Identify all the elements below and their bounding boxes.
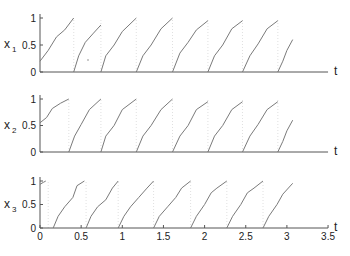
data-line-segment bbox=[208, 102, 243, 152]
x-tick-label: 0.5 bbox=[74, 231, 88, 242]
data-line-segment bbox=[69, 99, 101, 152]
data-line-segment bbox=[243, 21, 278, 72]
y-axis-label-subscript: 1 bbox=[12, 45, 17, 54]
y-tick-label: 0 bbox=[30, 223, 36, 234]
y-tick-label: 0.5 bbox=[22, 40, 36, 51]
data-line-segment bbox=[53, 181, 84, 228]
data-line-segment bbox=[101, 99, 136, 152]
stacked-phase-chart: 00.51x1t00.51x2t00.51x3t00.511.522.533.5 bbox=[0, 0, 350, 256]
data-line-segment bbox=[136, 18, 172, 72]
x-axis-label: t bbox=[334, 64, 338, 78]
x-tick-label: 2 bbox=[202, 231, 208, 242]
panel-x2: 00.51x2t bbox=[4, 94, 338, 159]
data-line-segment bbox=[173, 21, 208, 72]
x-tick-label: 0 bbox=[37, 231, 43, 242]
y-axis-label: x bbox=[4, 197, 10, 211]
data-line-segment bbox=[101, 18, 136, 72]
y-tick-label: 1 bbox=[30, 13, 36, 24]
data-line-segment bbox=[278, 120, 293, 152]
y-axis-label-subscript: 3 bbox=[12, 205, 17, 214]
y-axis-label: x bbox=[4, 118, 10, 132]
data-line-segment bbox=[86, 181, 118, 228]
y-tick-label: 0 bbox=[30, 67, 36, 78]
y-tick-label: 0.5 bbox=[22, 199, 36, 210]
stray-dot bbox=[87, 59, 89, 61]
y-axis-label-subscript: 2 bbox=[12, 126, 17, 135]
x-axis-label: t bbox=[334, 144, 338, 158]
x-tick-label: 1 bbox=[120, 231, 126, 242]
y-tick-label: 0.5 bbox=[22, 120, 36, 131]
y-tick-label: 1 bbox=[30, 94, 36, 105]
x-tick-label: 3.5 bbox=[321, 231, 335, 242]
data-line-segment bbox=[118, 181, 153, 228]
data-line-segment bbox=[40, 18, 74, 61]
data-line-segment bbox=[173, 102, 208, 152]
data-line-segment bbox=[40, 99, 69, 123]
y-tick-label: 1 bbox=[30, 176, 36, 187]
data-line-segment bbox=[191, 181, 227, 228]
x-tick-label: 1.5 bbox=[156, 231, 170, 242]
data-line-segment bbox=[263, 183, 293, 228]
data-line-segment bbox=[154, 181, 191, 228]
x-tick-label: 3 bbox=[284, 231, 290, 242]
data-line-segment bbox=[278, 40, 293, 72]
x-tick-label: 2.5 bbox=[239, 231, 253, 242]
data-line-segment bbox=[136, 99, 172, 152]
data-line-segment bbox=[227, 181, 263, 228]
data-line-segment bbox=[243, 102, 278, 152]
panel-x1: 00.51x1t bbox=[4, 13, 338, 79]
y-tick-label: 0 bbox=[30, 147, 36, 158]
y-axis-label: x bbox=[4, 37, 10, 51]
data-line-segment bbox=[74, 25, 101, 72]
data-line-segment bbox=[208, 21, 243, 72]
panel-x3: 00.51x3t00.511.522.533.5 bbox=[4, 176, 338, 243]
